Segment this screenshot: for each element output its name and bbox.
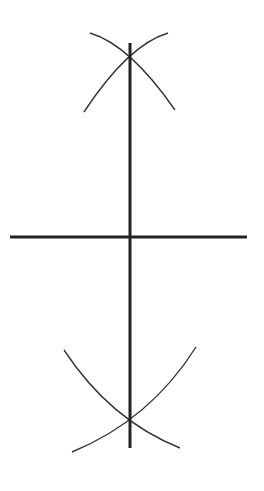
- construction-diagram: [0, 0, 264, 491]
